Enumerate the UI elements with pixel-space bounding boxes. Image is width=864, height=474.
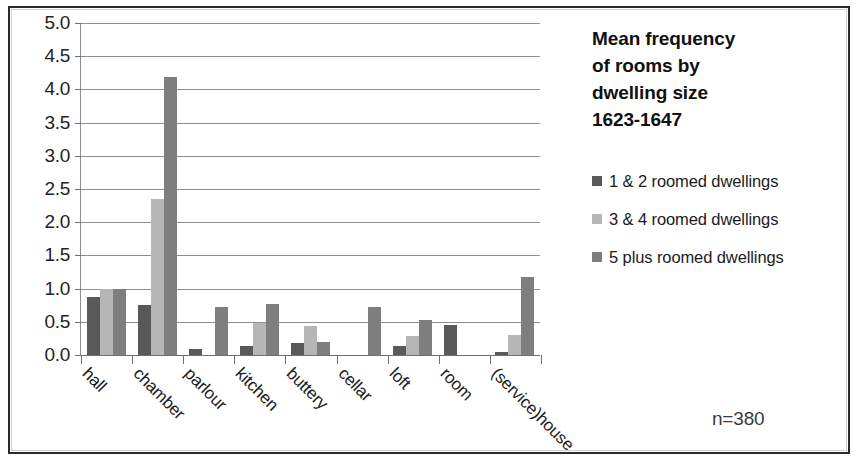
plot-area [80,23,540,355]
y-axis-tick-label: 3.5 [44,112,70,134]
x-axis-tick-mark [285,355,286,364]
bar-group [132,23,183,355]
bar-group [438,23,489,355]
x-axis-category-label: loft [385,364,415,394]
x-axis-tick-mark [132,355,133,364]
bar [240,346,253,355]
y-axis-tick-label: 1.0 [44,278,70,300]
bar [253,323,266,355]
chart-title-line: of rooms by [592,53,842,80]
x-axis-tick-mark [234,355,235,364]
chart-legend: 1 & 2 roomed dwellings3 & 4 roomed dwell… [592,172,842,267]
x-axis-tick-mark [541,355,542,364]
bar-group [285,23,336,355]
bar [151,199,164,355]
legend-item[interactable]: 3 & 4 roomed dwellings [592,210,842,229]
y-axis-tick-label: 0.5 [44,311,70,333]
bar [87,297,100,355]
x-axis-tick-mark [183,355,184,364]
bar-group [489,23,540,355]
bar [215,307,228,355]
bar [419,320,432,355]
bar [164,77,177,355]
legend-swatch-icon [592,176,602,186]
x-axis-category-label: buttery [282,364,332,414]
bar [304,326,317,355]
chart-title-line: Mean frequency [592,26,842,53]
bar [138,305,151,355]
bar-group [234,23,285,355]
y-axis-tick-label: 4.5 [44,45,70,67]
y-axis-tick-label: 0.0 [44,344,70,366]
x-axis-tick-mark [439,355,440,364]
bar [393,346,406,355]
y-axis-tick-label: 4.0 [44,78,70,100]
x-axis-tick-mark [388,355,389,364]
chart-title-line: 1623-1647 [592,107,842,134]
bar-group [336,23,387,355]
bar-group [183,23,234,355]
chart-figure: 5.04.54.03.53.02.52.01.51.00.50.0 hallch… [0,0,864,474]
y-axis-tick-label: 5.0 [44,12,70,34]
bar [266,304,279,355]
bar [317,342,330,355]
bar [444,325,457,355]
bar-series-container [81,23,540,355]
y-axis-tick-label: 1.5 [44,244,70,266]
bar [113,289,126,355]
y-axis-tick-label: 2.0 [44,211,70,233]
x-axis-tick-mark [490,355,491,364]
bar-group [387,23,438,355]
bar [368,307,381,355]
legend-swatch-icon [592,252,602,262]
bar-group [81,23,132,355]
legend-label: 1 & 2 roomed dwellings [609,172,778,191]
bar [521,277,534,355]
plot-area-wrapper: 5.04.54.03.53.02.52.01.51.00.50.0 hallch… [22,14,562,454]
x-axis-category-label: kitchen [231,364,282,415]
legend-swatch-icon [592,214,602,224]
chart-side-panel: Mean frequencyof rooms bydwelling size16… [592,26,842,286]
y-axis-tick-label: 2.5 [44,178,70,200]
x-axis-tick-marks [81,355,541,364]
sample-size-label: n=380 [712,408,764,430]
chart-title: Mean frequencyof rooms bydwelling size16… [592,26,842,134]
x-axis-category-label: parlour [180,364,231,415]
bar [291,343,304,355]
x-axis-tick-mark [337,355,338,364]
legend-label: 5 plus roomed dwellings [609,248,784,267]
legend-label: 3 & 4 roomed dwellings [609,210,778,229]
chart-title-line: dwelling size [592,80,842,107]
bar [508,335,521,355]
bar [406,336,419,355]
legend-item[interactable]: 5 plus roomed dwellings [592,248,842,267]
x-axis-category-labels: hallchamberparlourkitchenbutterycellarlo… [80,364,550,454]
y-axis-tick-labels: 5.04.54.03.53.02.52.01.51.00.50.0 [22,14,74,354]
x-axis-category-label: room [436,364,477,405]
y-axis-tick-label: 3.0 [44,145,70,167]
bar [100,289,113,355]
x-axis-tick-mark [81,355,82,364]
legend-item[interactable]: 1 & 2 roomed dwellings [592,172,842,191]
x-axis-category-label: cellar [333,364,375,406]
x-axis-category-label: hall [78,364,110,396]
x-axis-category-label: chamber [129,364,189,424]
